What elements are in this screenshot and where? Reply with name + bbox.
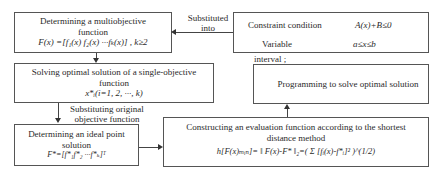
node-title-cont: solution <box>15 140 138 151</box>
node-constraint-condition: Constraint condition A(x)+B≤0 Variable a… <box>233 12 429 53</box>
edge-label-line1: Substituting original <box>66 104 148 114</box>
node-title-cont: function <box>15 27 171 38</box>
arrow-right-icon <box>158 144 163 150</box>
edge-label-line1: Substituted <box>180 13 236 23</box>
node-title: Constructing an evaluation function acco… <box>164 122 428 133</box>
variable-formula: a≤x≤b <box>353 39 376 50</box>
constraint-formula: A(x)+B≤0 <box>355 20 392 31</box>
node-title-cont: distance method <box>164 133 428 144</box>
arrow-left-icon <box>171 29 176 35</box>
constraint-label: Constraint condition <box>248 20 322 31</box>
node-programming-solution: Programming to solve optimal solution <box>253 64 429 104</box>
edge-label-line2: objective function <box>66 114 148 124</box>
edge-label-line2: into <box>180 23 236 33</box>
node-evaluation-function: Constructing an evaluation function acco… <box>163 117 429 167</box>
edge-single-to-ideal-line <box>58 103 59 119</box>
node-title: Programming to solve optimal solution <box>254 79 428 90</box>
edge-label-substituted-into: Substituted into <box>180 13 236 33</box>
node-ideal-point-solution: Determining an ideal point solution F*=[… <box>14 124 139 166</box>
node-formula: x*ᵢ(i=1, 2, ···, k) <box>15 88 213 99</box>
node-title: Determining an ideal point <box>15 129 138 140</box>
arrow-down-icon <box>93 58 99 63</box>
variable-interval-label: interval ; <box>254 54 286 64</box>
node-single-objective-solution: Solving optimal solution of a single-obj… <box>14 63 214 103</box>
arrow-down-icon <box>55 118 61 123</box>
arrow-up-icon <box>284 104 290 109</box>
node-title-cont: function <box>15 78 213 89</box>
variable-label: Variable <box>262 39 292 50</box>
edge-label-substituting-original: Substituting original objective function <box>66 104 148 124</box>
node-formula: F*=[f*₁f*₂ ···f*ₖ]ᵀ <box>15 150 138 161</box>
node-formula: h[F(x)ₘᵢₙ]= ‖ F(x)-F* ‖₂=( Σ [fᵢ(x)-f*ᵢ]… <box>164 146 428 157</box>
node-title: Determining a multiobjective <box>15 16 171 27</box>
node-formula: F(x) =[f₁(x) f₂(x) ···fₖ(x)] , k≥2 <box>15 37 171 48</box>
node-title: Solving optimal solution of a single-obj… <box>15 67 213 78</box>
node-multiobjective-function: Determining a multiobjective function F(… <box>14 12 172 53</box>
edge-evaluation-to-programming-line <box>287 108 288 117</box>
edge-ideal-to-evaluation-line <box>139 147 159 148</box>
